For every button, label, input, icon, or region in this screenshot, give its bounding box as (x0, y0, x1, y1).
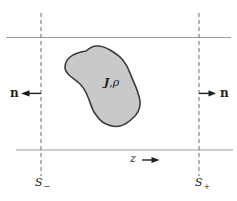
right-normal-label: n (220, 87, 229, 99)
z-axis-label: z (130, 153, 136, 164)
source-region-blob (65, 46, 140, 127)
source-region-label: J,ρ (104, 77, 119, 88)
charge-density-symbol: ,ρ (109, 76, 119, 89)
left-normal-arrow (21, 90, 41, 96)
z-axis-arrow-head (152, 157, 160, 163)
right-surface-symbol: S (195, 176, 203, 189)
left-normal-arrow-head (21, 90, 30, 96)
left-surface-symbol: S (35, 176, 43, 189)
left-surface-label: S− (35, 177, 49, 188)
electrodynamics-source-region-diagram: n n J,ρ z S− S+ (0, 0, 237, 201)
left-normal-label: n (10, 87, 19, 99)
right-surface-label: S+ (195, 177, 209, 188)
right-normal-arrow-head (209, 90, 217, 96)
z-axis-arrow (142, 157, 160, 163)
left-surface-subscript: − (44, 182, 51, 191)
right-normal-arrow (199, 90, 216, 96)
right-surface-subscript: + (204, 182, 211, 191)
diagram-canvas (0, 0, 237, 201)
